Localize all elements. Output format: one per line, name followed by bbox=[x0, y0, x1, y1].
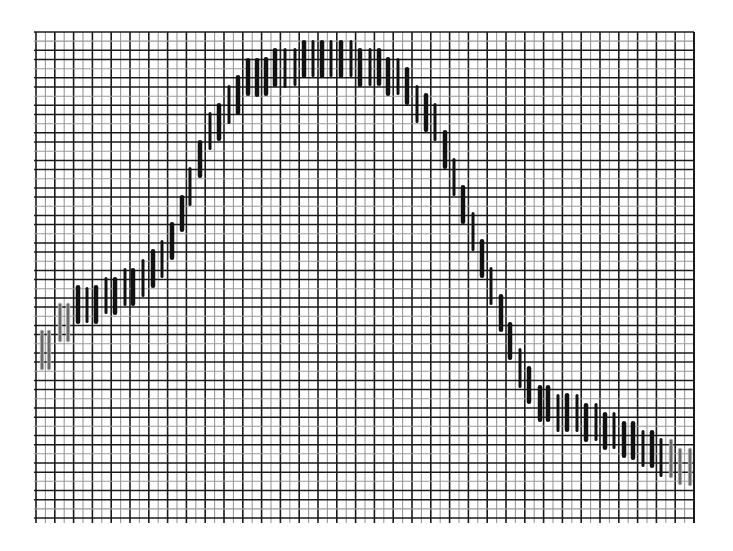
data-bar bbox=[198, 140, 203, 178]
data-bar bbox=[443, 130, 448, 169]
data-bar bbox=[688, 448, 692, 486]
data-bar bbox=[369, 48, 372, 86]
data-bar bbox=[669, 439, 673, 478]
data-bar bbox=[660, 438, 663, 477]
data-bar bbox=[557, 394, 560, 432]
data-bar bbox=[180, 195, 185, 232]
data-bar bbox=[189, 167, 192, 206]
data-bar bbox=[472, 212, 475, 251]
data-bar bbox=[151, 249, 156, 288]
data-bar bbox=[330, 40, 333, 77]
data-bar bbox=[228, 85, 231, 124]
data-bar bbox=[217, 103, 222, 141]
data-bar bbox=[613, 412, 616, 449]
data-bar bbox=[47, 330, 51, 370]
data-bar bbox=[312, 40, 315, 77]
data-bar bbox=[124, 268, 127, 306]
data-bar bbox=[565, 393, 570, 432]
data-bar bbox=[397, 58, 400, 95]
data-bar bbox=[461, 185, 466, 224]
data-bar bbox=[508, 322, 513, 360]
data-bar bbox=[113, 277, 118, 315]
data-bar bbox=[631, 421, 636, 460]
data-bar bbox=[294, 48, 297, 86]
data-bar bbox=[40, 330, 44, 370]
data-bar bbox=[499, 294, 504, 332]
data-bar bbox=[86, 287, 89, 323]
data-bar bbox=[142, 259, 145, 297]
data-bar bbox=[209, 112, 212, 150]
data-bar bbox=[255, 58, 260, 97]
data-bar bbox=[246, 58, 251, 96]
data-bar bbox=[603, 412, 608, 450]
data-bar bbox=[595, 403, 598, 441]
data-bar bbox=[284, 48, 287, 88]
data-bar bbox=[66, 303, 70, 342]
data-bar bbox=[453, 158, 456, 196]
data-bar bbox=[546, 385, 551, 422]
data-bar bbox=[377, 48, 382, 86]
data-bar bbox=[434, 103, 437, 141]
data-bar bbox=[576, 394, 579, 432]
data-bar bbox=[490, 267, 493, 305]
data-bar bbox=[358, 48, 363, 87]
data-bar bbox=[236, 75, 241, 115]
data-bar bbox=[131, 268, 136, 306]
data-bar bbox=[642, 430, 645, 467]
data-bar bbox=[170, 222, 175, 260]
data-bar bbox=[350, 40, 353, 77]
data-bar bbox=[161, 240, 164, 278]
data-bar bbox=[320, 40, 325, 78]
data-bar bbox=[273, 48, 278, 87]
data-bar bbox=[480, 239, 485, 278]
data-bar bbox=[424, 93, 429, 132]
data-bar bbox=[405, 67, 410, 105]
data-bar bbox=[416, 85, 419, 123]
data-bar bbox=[105, 277, 108, 314]
data-bar bbox=[76, 285, 81, 324]
data-bar bbox=[527, 366, 532, 404]
data-bar bbox=[678, 448, 682, 485]
data-bar bbox=[584, 403, 589, 442]
data-bar bbox=[339, 40, 344, 78]
data-bar bbox=[650, 430, 655, 468]
data-bars bbox=[40, 40, 692, 486]
data-bar bbox=[302, 40, 307, 78]
data-bar bbox=[264, 57, 269, 96]
data-bar bbox=[386, 57, 391, 96]
data-bar bbox=[94, 285, 99, 324]
data-bar bbox=[538, 385, 543, 422]
data-bar bbox=[58, 303, 62, 342]
data-bar bbox=[622, 421, 627, 458]
chart-plot bbox=[0, 0, 733, 551]
data-bar bbox=[519, 348, 522, 388]
